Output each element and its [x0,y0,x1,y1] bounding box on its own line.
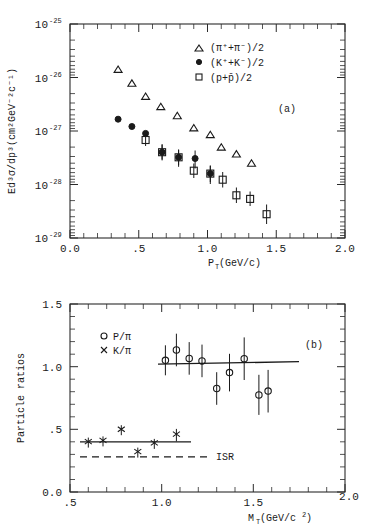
panel-a-y-ticks [70,24,345,238]
data-point [173,112,181,118]
data-point [232,151,240,157]
panel-b-x-ticks [70,304,345,492]
panel-a-ylabel: Ed³σ/dp³(cm²GeV⁻²c⁻¹) [7,68,18,194]
data-point [115,116,121,122]
data-point [142,93,150,99]
panel-a-ytick-3: 10 [35,180,48,192]
panel-b-legend: P/π K/π [101,332,131,357]
panel-a-ytick-4: 10 [35,233,48,245]
panel-b-ytick-1: 1.0 [42,362,62,374]
data-point [206,131,214,137]
panel-b-xtick-1: 1.0 [152,497,172,509]
data-point [217,144,225,150]
panel-a-series-proton [142,134,270,224]
panel-b-x-ticklabels: .5 1.0 1.5 2.0 [63,491,359,509]
panel-b-ylabel: Particle ratios [16,353,27,443]
panel-a-label: (a) [278,104,296,115]
panel-b-y-minor-ticks [70,317,345,480]
legend-open-circle-icon [101,333,107,339]
panel-a-x-minor-ticks [84,24,332,238]
panel-a-xtick-4: 2.0 [335,243,355,255]
legend-filled-circle-icon [196,59,201,64]
proton-fit-line [158,362,299,365]
panel-b-y-ticks [70,304,345,492]
panel-a-legend-label-2: (p+p̄)/2 [210,73,252,84]
panel-a: 0.0 .5 1.0 1.5 2.0 10 -25 10 -26 10 -27 … [7,17,355,271]
panel-b-legend-label-1: K/π [113,346,131,357]
data-point [192,156,198,162]
panel-b-xtick-3: 2.0 [339,491,359,503]
panel-a-ytick-exp-0: -25 [49,17,62,25]
panel-a-legend-label-0: (π⁺+π⁻)/2 [210,43,264,54]
physics-figure: 0.0 .5 1.0 1.5 2.0 10 -25 10 -26 10 -27 … [0,0,379,529]
panel-a-xtick-3: 1.5 [266,243,286,255]
panel-a-x-ticks [70,24,345,238]
data-point [114,66,122,72]
panel-a-ytick-exp-4: -29 [49,231,62,239]
panel-a-legend: (π⁺+π⁻)/2 (K⁺+K⁻)/2 (p+p̄)/2 [195,43,264,84]
panel-a-xtick-0: 0.0 [60,243,80,255]
panel-b-ytick-3: 0.0 [42,487,62,499]
panel-a-x-ticklabels: 0.0 .5 1.0 1.5 2.0 [60,243,355,255]
panel-a-ytick-0: 10 [35,19,48,31]
panel-a-series-kaon [115,116,213,184]
panel-a-y-ticklabels: 10 -25 10 -26 10 -27 10 -28 10 -29 [35,17,62,245]
panel-b-xtick-2: 1.5 [243,497,263,509]
panel-b-series-proton-ratio [162,334,271,415]
panel-a-xtick-1: .5 [132,243,145,255]
panel-a-ytick-exp-3: -28 [49,178,62,186]
data-point [190,125,198,131]
panel-b-ytick-0: 1.5 [42,299,62,311]
panel-b-xlabel-close: ) [306,513,312,524]
panel-a-frame [70,24,345,238]
isr-label: ISR [216,452,234,463]
panel-b-label: (b) [305,340,323,351]
data-point [129,124,135,130]
panel-a-xlabel: P T (GeV/c) [208,258,261,271]
panel-a-xlabel-rest: (GeV/c) [219,258,261,269]
panel-b-y-ticklabels: 1.5 1.0 .5 0.0 [42,299,62,499]
panel-a-ytick-exp-1: -26 [49,71,62,79]
panel-b-ytick-2: .5 [49,424,62,436]
legend-open-square-icon [196,74,202,80]
panel-a-ytick-1: 10 [35,73,48,85]
panel-a-xtick-2: 1.0 [198,243,218,255]
panel-b-frame [70,304,345,492]
panel-a-ytick-exp-2: -27 [49,124,62,132]
panel-b-xlabel-main: M [248,513,254,524]
legend-open-triangle-icon [195,45,203,51]
figure-canvas: 0.0 .5 1.0 1.5 2.0 10 -25 10 -26 10 -27 … [0,0,379,529]
panel-b-xlabel: M T (GeV/c 2 ) [248,511,312,526]
panel-b: .5 1.0 1.5 2.0 1.5 1.0 .5 0.0 Particle r… [16,299,359,526]
panel-b-legend-label-0: P/π [113,332,131,343]
legend-cross-icon [101,347,107,353]
panel-b-xlabel-rest: (GeV/c [260,513,296,524]
panel-a-ytick-2: 10 [35,126,48,138]
data-point [128,80,136,86]
data-point [248,160,256,166]
panel-a-xlabel-main: P [208,258,214,269]
data-point [157,103,165,109]
panel-a-legend-label-1: (K⁺+K⁻)/2 [210,58,264,69]
panel-b-xtick-0: .5 [63,497,76,509]
